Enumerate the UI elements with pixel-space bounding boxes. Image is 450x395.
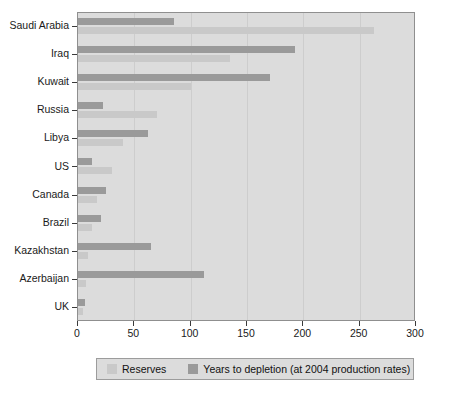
bar-depletion bbox=[78, 187, 106, 194]
bar-group bbox=[78, 100, 414, 128]
bar-group bbox=[78, 16, 414, 44]
x-axis-label: 200 bbox=[294, 327, 312, 339]
bar-reserves bbox=[78, 196, 97, 203]
bar-group bbox=[78, 185, 414, 213]
y-axis-label: Iraq bbox=[51, 48, 69, 59]
x-axis-tick bbox=[77, 321, 78, 326]
bar-group bbox=[78, 156, 414, 184]
x-axis-tick bbox=[302, 321, 303, 326]
bar-reserves bbox=[78, 224, 92, 231]
x-axis-tick bbox=[246, 321, 247, 326]
bar-depletion bbox=[78, 243, 151, 250]
x-axis-label: 0 bbox=[74, 327, 80, 339]
y-axis-label: Russia bbox=[37, 104, 69, 115]
bar-depletion bbox=[78, 271, 204, 278]
depletion-swatch-icon bbox=[188, 364, 198, 374]
bar-depletion bbox=[78, 102, 103, 109]
y-axis-label: Brazil bbox=[43, 217, 69, 228]
chart-legend: Reserves Years to depletion (at 2004 pro… bbox=[96, 358, 414, 380]
bar-series-container bbox=[78, 13, 414, 320]
y-axis-label: US bbox=[54, 161, 69, 172]
bar-group bbox=[78, 213, 414, 241]
y-axis-label: Kuwait bbox=[37, 76, 69, 87]
plot-area bbox=[77, 12, 415, 321]
bar-reserves bbox=[78, 167, 112, 174]
bar-group bbox=[78, 269, 414, 297]
bar-group bbox=[78, 128, 414, 156]
x-axis-tick bbox=[190, 321, 191, 326]
reserves-swatch-icon bbox=[107, 364, 117, 374]
y-axis-label: Libya bbox=[44, 132, 69, 143]
bar-group bbox=[78, 297, 414, 321]
legend-item-depletion: Years to depletion (at 2004 production r… bbox=[188, 363, 410, 375]
bar-depletion bbox=[78, 46, 295, 53]
bar-reserves bbox=[78, 308, 83, 315]
bar-reserves bbox=[78, 139, 123, 146]
bar-reserves bbox=[78, 252, 88, 259]
y-axis-label: Kazakhstan bbox=[14, 245, 69, 256]
y-axis-label: Azerbaijan bbox=[19, 273, 69, 284]
legend-label-reserves: Reserves bbox=[122, 363, 166, 375]
x-axis-tick bbox=[133, 321, 134, 326]
bar-depletion bbox=[78, 130, 148, 137]
bar-group bbox=[78, 241, 414, 269]
x-axis-label: 100 bbox=[181, 327, 199, 339]
bar-reserves bbox=[78, 280, 86, 287]
x-axis-label: 150 bbox=[237, 327, 255, 339]
x-axis-label: 300 bbox=[406, 327, 424, 339]
bar-group bbox=[78, 72, 414, 100]
bar-reserves bbox=[78, 55, 230, 62]
y-axis-label: Canada bbox=[32, 189, 69, 200]
legend-label-depletion: Years to depletion (at 2004 production r… bbox=[203, 363, 410, 375]
y-axis-label: Saudi Arabia bbox=[9, 20, 69, 31]
x-axis-label: 250 bbox=[350, 327, 368, 339]
bar-reserves bbox=[78, 111, 157, 118]
x-axis-tick bbox=[415, 321, 416, 326]
y-axis-label: UK bbox=[54, 301, 69, 312]
bar-reserves bbox=[78, 27, 374, 34]
x-axis-label: 50 bbox=[127, 327, 139, 339]
bar-depletion bbox=[78, 18, 174, 25]
bar-depletion bbox=[78, 299, 85, 306]
bar-depletion bbox=[78, 215, 101, 222]
bar-reserves bbox=[78, 83, 191, 90]
legend-item-reserves: Reserves bbox=[107, 363, 166, 375]
bar-depletion bbox=[78, 158, 92, 165]
x-axis-tick bbox=[359, 321, 360, 326]
bar-chart: Saudi ArabiaIraqKuwaitRussiaLibyaUSCanad… bbox=[0, 0, 450, 395]
bar-group bbox=[78, 44, 414, 72]
bar-depletion bbox=[78, 74, 270, 81]
